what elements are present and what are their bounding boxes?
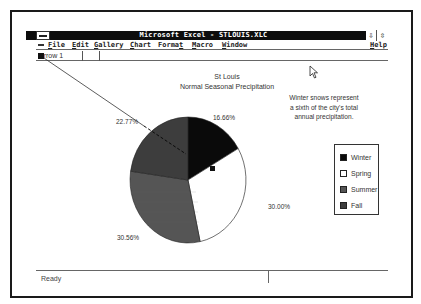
menu-chart[interactable]: Chart [130, 40, 151, 50]
menu-window[interactable]: Window [222, 40, 247, 50]
legend-item-fall: Fall [340, 201, 362, 210]
menu-help[interactable]: Help [370, 40, 387, 50]
mouse-pointer-icon [309, 65, 319, 79]
status-divider [268, 271, 269, 283]
annotation-line: a sixth of the city's total [278, 103, 370, 113]
document-control-menu-icon[interactable] [38, 44, 44, 46]
window-title: Microsoft Excel - STLOUIS.XLC [50, 31, 357, 40]
selection-handle-start[interactable] [38, 53, 44, 59]
formula-cancel-box[interactable] [83, 51, 100, 61]
legend-label: Spring [351, 169, 371, 178]
arrow-line[interactable] [41, 56, 144, 126]
menu-gallery[interactable]: Gallery [94, 40, 124, 50]
status-text: Ready [41, 272, 61, 285]
menu-bar: File Edit Gallery Chart Format Macro Win… [36, 40, 388, 50]
legend-swatch-icon [340, 202, 347, 209]
legend-item-spring: Spring [340, 169, 371, 178]
menu-edit[interactable]: Edit [72, 40, 89, 50]
legend-label: Summer [351, 185, 377, 194]
legend-label: Winter [351, 153, 371, 162]
legend-swatch-icon [340, 186, 347, 193]
chart-annotation-text[interactable]: Winter snows represent a sixth of the ci… [278, 93, 370, 122]
annotation-line: annual precipitation. [278, 112, 370, 122]
formula-bar: Arrow 1 [36, 51, 388, 61]
chart-title[interactable]: St Louis Normal Seasonal Precipitation [166, 72, 288, 92]
data-label-fall[interactable]: 22.77% [116, 118, 138, 126]
minimize-arrow-icon: ⇩ [368, 30, 373, 40]
menu-file[interactable]: File [48, 40, 65, 50]
menu-macro[interactable]: Macro [192, 40, 213, 50]
chart-area[interactable]: St Louis Normal Seasonal Precipitation W… [36, 62, 388, 267]
legend-swatch-icon [340, 154, 347, 161]
legend-item-winter: Winter [340, 153, 371, 162]
chart-title-line1: St Louis [166, 72, 288, 82]
system-menu-button[interactable] [36, 31, 50, 40]
status-bar: Ready [36, 270, 388, 284]
data-label-spring[interactable]: 30.00% [268, 203, 290, 211]
legend-swatch-icon [340, 170, 347, 177]
chart-title-line2: Normal Seasonal Precipitation [166, 82, 288, 92]
pie-slice-fall[interactable] [131, 117, 188, 180]
chart-legend[interactable]: Winter Spring Summer Fall [334, 144, 379, 215]
restore-arrows-icon: ⇳ [380, 30, 385, 40]
data-label-summer[interactable]: 30.56% [117, 234, 139, 242]
formula-input[interactable] [102, 51, 388, 61]
legend-label: Fall [351, 201, 362, 210]
selection-handle-end[interactable] [210, 166, 215, 171]
legend-item-summer: Summer [340, 185, 377, 194]
annotation-line: Winter snows represent [278, 93, 370, 103]
data-label-winter[interactable]: 16.66% [213, 114, 235, 122]
menu-format[interactable]: Format [158, 40, 183, 50]
